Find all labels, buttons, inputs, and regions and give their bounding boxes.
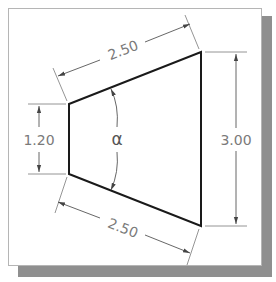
dimension-label-top-2-50: 2.50 — [106, 37, 141, 63]
dimension-label-3-00: 3.00 — [220, 132, 251, 148]
dimension-top-edge: 2.50 — [53, 15, 199, 101]
trapezoid-shape — [69, 52, 201, 226]
angle-label-alpha: α — [111, 129, 122, 149]
dimension-bottom-edge: 2.50 — [55, 177, 199, 265]
trapezoid-drawing: 1.20 3.00 2.50 2.50 α — [0, 0, 276, 282]
dimension-right-height: 3.00 — [205, 52, 252, 226]
dimension-angle-alpha: α — [111, 89, 123, 190]
dimension-left-height: 1.20 — [23, 104, 66, 174]
dimension-label-bottom-2-50: 2.50 — [106, 215, 141, 241]
dimension-label-1-20: 1.20 — [23, 132, 54, 148]
